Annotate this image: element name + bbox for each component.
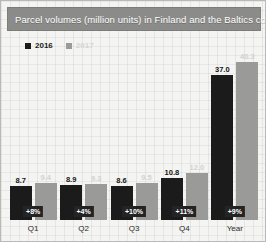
bar-value-label: 40.3 (240, 52, 255, 61)
legend-label-2017: 2017 (76, 41, 94, 50)
bar-group: 10.812.0+11% (159, 35, 209, 220)
plot-area: 8.79.4+8%8.99.3+4%8.69.5+10%10.812.0+11%… (8, 35, 260, 220)
bar-groups: 8.79.4+8%8.99.3+4%8.69.5+10%10.812.0+11%… (8, 35, 260, 220)
bar-value-label: 9.3 (91, 174, 101, 183)
bar-value-label: 9.4 (40, 173, 50, 182)
bar-value-label: 37.0 (215, 65, 230, 74)
page-title: Parcel volumes (million units) in Finlan… (8, 14, 266, 25)
x-axis-label-Q3: Q3 (109, 224, 159, 233)
bar-value-label: 9.5 (141, 173, 151, 182)
growth-badge-Q2: +4% (74, 206, 94, 217)
chart-legend: 2016 2017 (25, 41, 94, 50)
bar-value-label: 8.9 (66, 175, 76, 184)
bar-group: 8.69.5+10% (109, 35, 159, 220)
bar-value-label: 10.8 (165, 168, 180, 177)
bar-value-label: 12.0 (190, 163, 205, 172)
chart-frame: Parcel volumes (million units) in Finlan… (0, 0, 266, 242)
growth-badge-Year: +9% (225, 206, 245, 217)
x-axis-label-Q4: Q4 (159, 224, 209, 233)
bar-2017-Year[interactable]: 40.3 (236, 62, 258, 220)
x-axis-label-Q2: Q2 (58, 224, 108, 233)
growth-badge-Q3: +10% (122, 206, 146, 217)
bar-2016-Year[interactable]: 37.0 (211, 75, 233, 220)
bar-group: 8.99.3+4% (58, 35, 108, 220)
legend-label-2016: 2016 (35, 41, 53, 50)
chart-title-bar: Parcel volumes (million units) in Finlan… (7, 7, 261, 31)
growth-badge-Q4: +11% (173, 206, 197, 217)
growth-badge-Q1: +8% (23, 206, 43, 217)
legend-item-2017: 2017 (66, 41, 94, 50)
x-axis-label-Year: Year (210, 224, 260, 233)
bar-group: 37.040.3+9% (210, 35, 260, 220)
x-axis-labels: Q1Q2Q3Q4Year (8, 224, 260, 233)
legend-swatch-2016 (25, 43, 31, 49)
bar-value-label: 8.7 (15, 176, 25, 185)
x-axis-label-Q1: Q1 (8, 224, 58, 233)
legend-swatch-2017 (66, 43, 72, 49)
legend-item-2016: 2016 (25, 41, 53, 50)
bar-group: 8.79.4+8% (8, 35, 58, 220)
bar-value-label: 8.6 (116, 176, 126, 185)
